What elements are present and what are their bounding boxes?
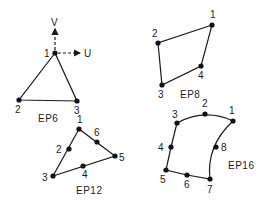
node-marker (209, 22, 214, 27)
node-label: 3 (158, 89, 164, 100)
node-label: 1 (44, 48, 50, 59)
node-label: 4 (198, 70, 204, 81)
element-ep6: 1 2 3 EP6 (15, 48, 80, 124)
node-marker (198, 63, 203, 68)
node-marker (168, 144, 173, 149)
node-label: 4 (82, 169, 88, 180)
node-label: 1 (210, 9, 216, 20)
node-label: 6 (184, 179, 190, 190)
node-marker (184, 172, 189, 177)
ep8-nodes (155, 22, 214, 87)
node-label: 3 (42, 172, 48, 183)
node-label: 1 (229, 105, 235, 116)
node-marker (202, 111, 207, 116)
node-marker (66, 146, 71, 151)
node-marker (174, 120, 179, 125)
node-marker (74, 98, 79, 103)
v-axis-label: V (51, 17, 58, 28)
node-marker (112, 153, 117, 158)
node-label: 1 (77, 114, 83, 125)
node-label: 6 (94, 127, 100, 138)
element-ep12: 1 2 3 4 5 6 EP12 (42, 114, 125, 196)
node-label: 5 (160, 174, 166, 185)
node-marker (16, 97, 21, 102)
node-marker (163, 167, 168, 172)
ep8-outline (158, 25, 212, 85)
element-name-label: EP6 (38, 113, 58, 124)
node-label: 2 (15, 104, 21, 115)
node-marker (230, 118, 235, 123)
element-ep16: 1 2 3 4 5 6 7 8 EP16 (158, 98, 254, 195)
node-label: 8 (221, 142, 227, 153)
node-marker (76, 126, 81, 131)
node-label: 4 (158, 142, 164, 153)
node-label: 2 (56, 144, 62, 155)
element-ep8: 1 2 3 4 EP8 (152, 9, 216, 100)
node-marker (159, 82, 164, 87)
node-label: 2 (202, 98, 208, 109)
node-label: 7 (207, 184, 213, 195)
node-marker (155, 40, 160, 45)
element-name-label: EP16 (228, 160, 254, 171)
node-marker (213, 144, 218, 149)
node-marker (52, 50, 57, 55)
ep6-outline (19, 53, 77, 101)
u-axis-label: U (84, 48, 91, 59)
node-marker (50, 173, 55, 178)
element-name-label: EP8 (180, 89, 200, 100)
node-label: 2 (152, 28, 158, 39)
node-label: 5 (119, 152, 125, 163)
node-marker (80, 163, 85, 168)
element-name-label: EP12 (76, 185, 102, 196)
node-label: 3 (172, 109, 178, 120)
element-shapes-diagram: V U 1 2 3 EP6 1 2 3 4 EP8 (0, 0, 263, 204)
node-marker (94, 139, 99, 144)
node-marker (207, 176, 212, 181)
